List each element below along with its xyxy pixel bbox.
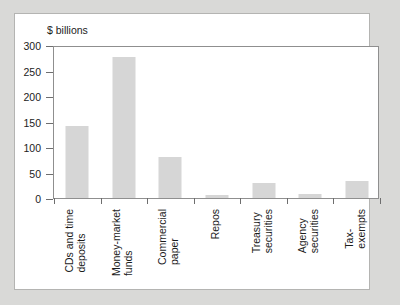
- x-axis-category-label: Treasury securities: [251, 209, 275, 253]
- y-axis-tick-label: 300: [3, 40, 41, 52]
- bar: [252, 183, 275, 198]
- y-axis-tick: [46, 72, 53, 73]
- x-axis-tick: [287, 198, 288, 204]
- y-axis-tick-label: 150: [3, 117, 41, 129]
- x-axis-category-label: Money-market funds: [111, 209, 135, 276]
- x-axis-tick: [147, 198, 148, 204]
- x-axis-category-label: Tax- exempts: [344, 209, 368, 249]
- y-axis-tick-label: 200: [3, 91, 41, 103]
- bar: [66, 126, 89, 198]
- y-axis-tick: [46, 123, 53, 124]
- y-axis-tick-label: 100: [3, 142, 41, 154]
- x-axis-category-label: CDs and time deposits: [65, 209, 89, 273]
- y-axis-tick: [46, 46, 53, 47]
- bar: [112, 57, 135, 198]
- bar: [159, 157, 182, 198]
- x-axis-tick: [240, 198, 241, 204]
- y-axis-tick: [46, 148, 53, 149]
- y-axis-tick-label: 250: [3, 66, 41, 78]
- y-axis-tick: [46, 199, 53, 200]
- x-axis-tick: [54, 198, 55, 204]
- y-axis-title: $ billions: [47, 24, 88, 36]
- bar: [345, 181, 368, 198]
- x-axis-tick: [380, 198, 381, 204]
- bar: [206, 195, 229, 198]
- x-axis-tick: [333, 198, 334, 204]
- plot-area: [53, 46, 379, 199]
- y-axis-tick-label: 50: [3, 168, 41, 180]
- x-axis-category-label: Repos: [210, 209, 222, 239]
- x-axis-category-label: Agency securities: [297, 209, 321, 253]
- chart-figure: $ billions 050100150200250300 CDs and ti…: [14, 13, 370, 290]
- x-axis-tick: [194, 198, 195, 204]
- x-axis-category-label: Commercial paper: [158, 209, 182, 265]
- y-axis-tick-label: 0: [3, 193, 41, 205]
- y-axis-tick: [46, 174, 53, 175]
- bar: [299, 194, 322, 198]
- y-axis-tick: [46, 97, 53, 98]
- x-axis-tick: [101, 198, 102, 204]
- bars-layer: [54, 47, 378, 198]
